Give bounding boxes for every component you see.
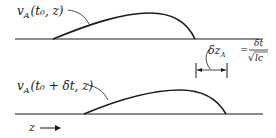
sqrt-symbol: √ [248,52,255,63]
top-label-leader [68,10,89,24]
dimension-arrow-left-icon [197,68,202,72]
bottom-pulse-curve [84,90,226,114]
displacement-numerator: δt [254,38,263,48]
axis-label-z: z [28,121,35,134]
displacement-lhs: δzA [208,44,225,59]
top-pulse-curve [53,13,195,39]
top-label: vA(t₀, z) [17,4,64,20]
wave-propagation-diagram: vA(t₀, z) δzA = δt √ lc vA(t₀ + δt, z) z [0,0,276,138]
axis-arrow-icon [55,125,61,131]
displacement-denominator: lc [255,53,263,63]
bottom-label: vA(t₀ + δt, z) [17,79,94,95]
dimension-arrow-right-icon [221,68,226,72]
